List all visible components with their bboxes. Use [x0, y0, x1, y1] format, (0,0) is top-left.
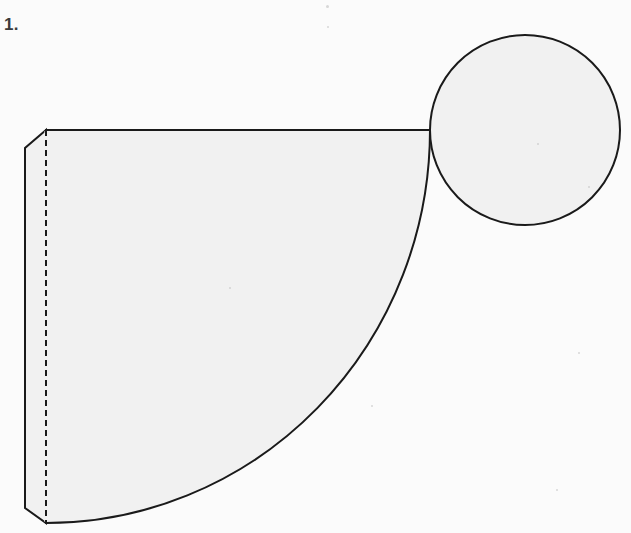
speck-top-center	[326, 5, 329, 8]
circle-base-shape	[430, 35, 620, 225]
speck-top-center-low	[327, 26, 329, 28]
sector-lateral-surface-shape	[46, 130, 430, 523]
cone-net-figure	[0, 0, 631, 533]
speck-curve-right	[371, 405, 373, 407]
figure-page: 1.	[0, 0, 631, 533]
speck-right-mid	[578, 352, 580, 354]
speck-lower-right	[556, 489, 558, 491]
glue-flap-shape	[25, 130, 46, 523]
speck-circle-lower	[588, 186, 590, 188]
speck-circle-inner	[537, 143, 539, 145]
speck-sector-mid	[229, 287, 231, 289]
